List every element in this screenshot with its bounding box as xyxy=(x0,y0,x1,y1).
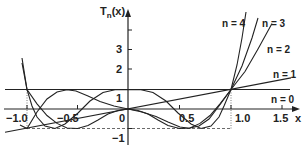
series-label-n0: n = 0 xyxy=(271,94,295,105)
x-tick-label-minus-1: −1.0 xyxy=(6,112,28,124)
series-label-n1: n = 1 xyxy=(273,69,297,80)
curve-n3 xyxy=(20,18,258,129)
y-tick-label-3: 3 xyxy=(116,43,122,55)
y-tick-label-minus-1: −1 xyxy=(112,132,125,144)
x-axis-label: x xyxy=(295,112,302,124)
series-label-n4: n = 4 xyxy=(222,18,246,29)
x-tick-label-1.5: 1.5 xyxy=(273,112,288,124)
y-tick-label-1: 1 xyxy=(116,92,122,104)
x-tick-label-1: 1.0 xyxy=(235,112,250,124)
curve-n4 xyxy=(22,12,246,129)
x-tick-label-0: 0 xyxy=(119,112,125,124)
series-label-n2: n = 2 xyxy=(267,44,291,55)
chebyshev-chart: −1.0 −0.5 0 0.5 1.0 1.5 x 3 2 1 −1 Tn(x)… xyxy=(0,0,306,150)
curve-n1 xyxy=(5,78,291,132)
x-tick-label-minus-0.5: −0.5 xyxy=(57,112,79,124)
x-tick-label-0.5: 0.5 xyxy=(179,112,194,124)
y-tick-label-2: 2 xyxy=(116,63,122,75)
y-axis-label: Tn(x) xyxy=(100,5,125,20)
y-axis-arrow-icon xyxy=(125,9,131,17)
series-label-n3: n = 3 xyxy=(262,18,286,29)
